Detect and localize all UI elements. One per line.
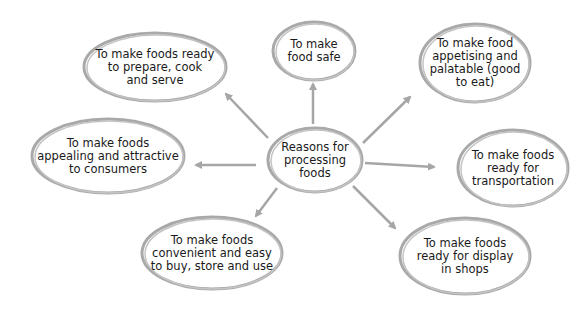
node-center: Reasons for processing foods xyxy=(266,126,364,194)
node-label: To make foods ready for transportation xyxy=(472,149,554,188)
node-display: To make foods ready for display in shops xyxy=(398,216,532,296)
node-label: To make foods convenient and easy to buy… xyxy=(151,234,273,273)
node-label: To make foods appealing and attractive t… xyxy=(37,137,178,176)
node-appetising: To make food appetising and palatable (g… xyxy=(418,22,532,104)
arrow-to-appetising xyxy=(363,97,410,143)
arrow-to-ready-prepare xyxy=(226,94,268,138)
node-label: To make food appetising and palatable (g… xyxy=(430,37,521,89)
node-label: To make food safe xyxy=(287,38,340,64)
node-transportation: To make foods ready for transportation xyxy=(456,128,570,208)
node-appealing: To make foods appealing and attractive t… xyxy=(30,116,186,196)
node-label: To make foods ready for display in shops xyxy=(417,237,514,276)
node-label: Reasons for processing foods xyxy=(281,141,348,180)
node-food-safe: To make food safe xyxy=(271,20,357,82)
node-label: To make foods ready to prepare, cook and… xyxy=(96,48,215,87)
node-ready-prepare: To make foods ready to prepare, cook and… xyxy=(82,30,228,104)
arrow-to-transportation xyxy=(365,163,434,167)
node-convenient: To make foods convenient and easy to buy… xyxy=(140,214,284,292)
